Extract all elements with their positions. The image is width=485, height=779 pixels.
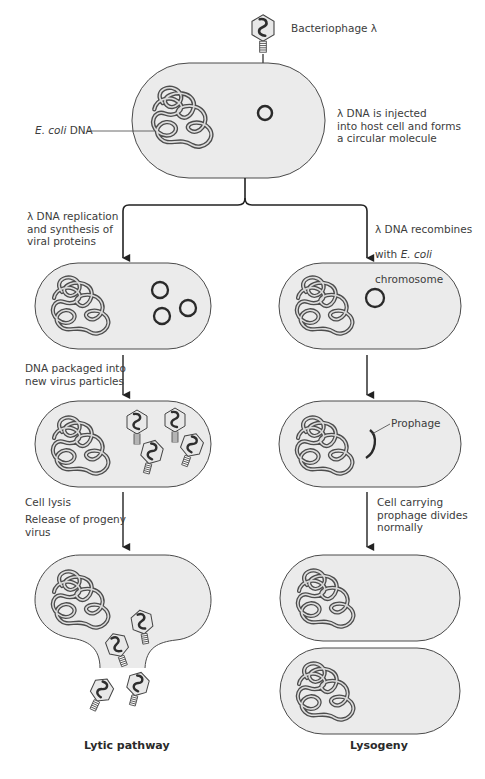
dna-text: DNA (66, 124, 92, 136)
lysogeny-divides-label: Cell carrying prophage divides normally (377, 496, 468, 534)
host-cell-infected (87, 63, 325, 178)
recombines-line1: λ DNA recombines (375, 223, 472, 235)
lytic-pathway-title: Lytic pathway (84, 739, 170, 752)
prophage-label: Prophage (391, 417, 441, 430)
pathway-fork (123, 178, 367, 258)
ecoli-italic: E. coli (35, 124, 66, 136)
step-injection-label: λ DNA is injected into host cell and for… (337, 107, 461, 145)
bacteriophage-icon (252, 15, 274, 52)
lytic-release-label: Release of progeny virus (25, 513, 126, 538)
daughter-cell-1 (280, 555, 460, 641)
cell-replication (35, 263, 211, 349)
bacteriophage-label: Bacteriophage λ (291, 22, 377, 35)
lysogeny-title: Lysogeny (350, 739, 408, 752)
lytic-packaging-label: DNA packaged into new virus particles (25, 362, 126, 387)
cell-prophage (279, 401, 461, 487)
ecoli-dna-label: E. coli DNA (35, 124, 93, 137)
lysogeny-recombination-label: λ DNA recombines with E. coli chromosome (375, 210, 472, 285)
recombines-line2-pre: with (375, 248, 401, 260)
daughter-cell-2 (280, 648, 460, 734)
recombines-line3: chromosome (375, 273, 443, 285)
lytic-lysis-label: Cell lysis (25, 496, 71, 509)
recombines-line2-italic: E. coli (401, 248, 432, 260)
cell-packaging (35, 401, 211, 487)
lytic-replication-label: λ DNA replication and synthesis of viral… (27, 210, 118, 248)
cell-lysing (35, 555, 211, 714)
